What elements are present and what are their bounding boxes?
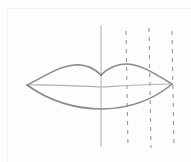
lips-drawing [0, 0, 191, 162]
dashed-guide-line-2 [149, 28, 151, 148]
cupid-bow-mark [100, 74, 102, 76]
lower-lip-outline [27, 84, 172, 109]
dashed-guide-line-1 [126, 31, 128, 148]
dashed-guide-line-3 [172, 31, 174, 148]
sketch-paper [0, 0, 191, 162]
